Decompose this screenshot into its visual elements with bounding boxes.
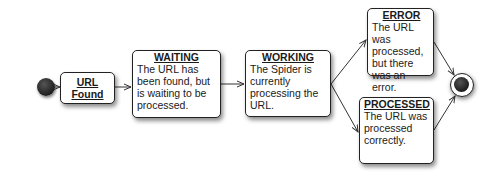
initial-state-node xyxy=(37,78,55,96)
state-url-found-line-2: Found xyxy=(71,88,103,100)
state-working: WORKING The Spider is currently processi… xyxy=(245,50,331,117)
state-error: ERROR The URL was processed, but there w… xyxy=(367,8,434,76)
state-error-description: The URL was processed, but there was an … xyxy=(372,21,431,93)
arrow-working-to-processed xyxy=(331,84,358,132)
state-processed-description: The URL was processed correctly. xyxy=(364,110,429,146)
state-url-found-title: URL Found xyxy=(71,76,103,100)
arrow-processed-to-end xyxy=(434,96,455,130)
final-state-inner-dot xyxy=(454,77,469,92)
arrow-working-to-error xyxy=(331,40,366,84)
arrow-error-to-end xyxy=(434,42,454,75)
state-waiting: WAITING The URL has been found, but is w… xyxy=(132,50,221,118)
state-waiting-title: WAITING xyxy=(137,52,216,63)
state-working-description: The Spider is currently processing the U… xyxy=(250,63,326,111)
state-url-found: URL Found xyxy=(60,72,115,104)
final-state-node xyxy=(450,73,474,97)
state-processed: PROCESSED The URL was processed correctl… xyxy=(359,97,434,164)
state-error-title: ERROR xyxy=(372,10,431,21)
state-waiting-description: The URL has been found, but is waiting t… xyxy=(137,63,216,111)
state-processed-title: PROCESSED xyxy=(364,99,429,110)
state-url-found-line-1: URL xyxy=(77,76,99,88)
state-working-title: WORKING xyxy=(250,52,326,63)
